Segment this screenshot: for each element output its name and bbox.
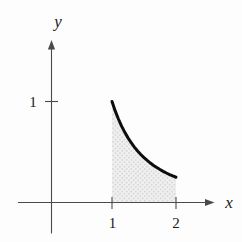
x-tick-1-label: 1 — [109, 215, 117, 231]
x-axis-arrow-icon — [205, 199, 215, 206]
y-axis-arrow-icon — [48, 40, 55, 50]
x-tick-2-label: 2 — [172, 215, 180, 231]
plot-canvas: y x 1 1 2 — [0, 0, 242, 242]
function-plot-figure: y x 1 1 2 — [0, 0, 242, 242]
y-axis-label: y — [52, 12, 62, 31]
x-axis-label: x — [224, 193, 233, 212]
y-tick-1-label: 1 — [29, 94, 37, 110]
shaded-region — [112, 102, 176, 203]
